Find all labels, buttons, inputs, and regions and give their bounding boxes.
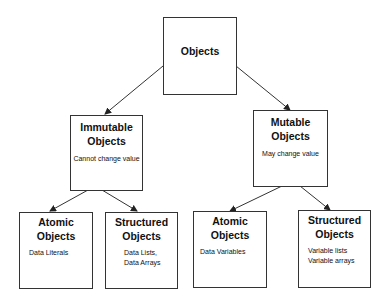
node-structured-objects-mutable: Structured Objects Variable lists Variab…	[298, 210, 371, 288]
node-immutable-objects: Immutable Objects Cannot change value	[70, 115, 143, 191]
node-description-line2: Variable arrays	[299, 256, 370, 266]
node-structured-objects-immutable: Structured Objects Data Lists, Data Arra…	[105, 212, 178, 289]
node-atomic-objects-mutable: Atomic Objects Data Variables	[193, 211, 267, 288]
node-description: Data Literals	[20, 248, 92, 258]
node-objects: Objects	[163, 17, 237, 95]
node-title-line2: Objects	[299, 227, 370, 241]
node-title-line1: Atomic	[194, 214, 266, 228]
node-title-line1: Mutable	[254, 115, 327, 129]
node-description-line2: Data Arrays	[106, 258, 177, 268]
arrow-immutable-to-atomic	[50, 190, 88, 211]
node-title-line2: Objects	[106, 229, 177, 243]
node-mutable-objects: Mutable Objects May change value	[253, 110, 328, 187]
node-description: Data Variables	[194, 247, 266, 257]
node-title-line1: Immutable	[71, 120, 142, 134]
node-title-line1: Structured	[106, 215, 177, 229]
node-title-line2: Objects	[71, 134, 142, 148]
node-title-line2: Objects	[194, 228, 266, 242]
node-title-line2: Objects	[254, 129, 327, 143]
arrow-mutable-to-structured	[300, 186, 330, 210]
arrow-immutable-to-structured	[102, 190, 137, 211]
arrow-root-to-mutable	[236, 66, 290, 110]
node-description: May change value	[254, 149, 327, 159]
node-atomic-objects-immutable: Atomic Objects Data Literals	[19, 212, 93, 289]
node-title-line1: Structured	[299, 213, 370, 227]
arrow-root-to-immutable	[105, 66, 163, 114]
node-description-line1: Data Lists,	[106, 248, 177, 258]
node-title-line1: Atomic	[20, 215, 92, 229]
node-objects-title: Objects	[164, 44, 236, 58]
arrow-mutable-to-atomic	[230, 186, 282, 211]
node-description: Cannot change value	[71, 154, 142, 164]
node-description-line1: Variable lists	[299, 246, 370, 256]
node-title-line2: Objects	[20, 229, 92, 243]
